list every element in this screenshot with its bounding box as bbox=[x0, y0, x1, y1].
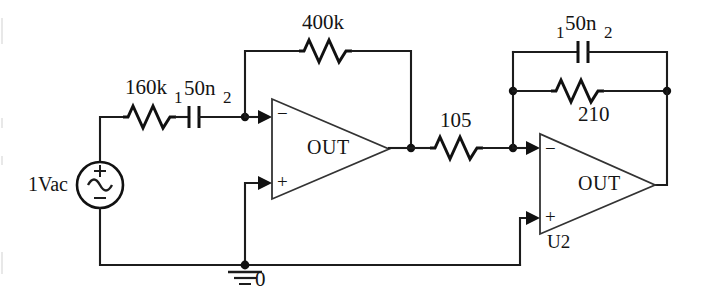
label-capacitor-50n-feedback: 50n bbox=[565, 13, 597, 34]
label-cap-fb-pin1: 1 bbox=[556, 24, 565, 41]
wire-rc-right-to-u2out bbox=[655, 91, 667, 185]
label-resistor-160k: 160k bbox=[125, 77, 167, 98]
wire-c50n-fb-right bbox=[588, 52, 667, 91]
wire-u1-plus-to-ground bbox=[245, 176, 272, 265]
label-source-value: 1Vac bbox=[28, 174, 68, 194]
label-opamp1-noninverting: + bbox=[277, 172, 288, 191]
label-opamp1-out: OUT bbox=[307, 137, 350, 157]
junction-ground bbox=[241, 261, 250, 270]
label-cap-input-pin2: 2 bbox=[223, 89, 232, 106]
resistor-210 bbox=[551, 80, 604, 102]
wire-source-to-input bbox=[100, 117, 123, 162]
resistor-160k bbox=[123, 106, 176, 128]
label-opamp2-reference: U2 bbox=[547, 232, 570, 251]
capacitor-50n-input bbox=[189, 106, 199, 128]
label-resistor-210: 210 bbox=[578, 104, 610, 125]
label-resistor-105: 105 bbox=[440, 110, 472, 131]
label-opamp2-out: OUT bbox=[578, 173, 621, 193]
label-opamp2-noninverting: + bbox=[545, 207, 556, 226]
wire-u2-plus-to-ground bbox=[520, 211, 540, 265]
label-capacitor-50n-input: 50n bbox=[184, 78, 216, 99]
resistor-400k bbox=[299, 40, 352, 62]
resistor-105 bbox=[430, 137, 483, 159]
wire-node-to-u2-minus bbox=[513, 141, 540, 155]
label-ground: 0 bbox=[255, 269, 266, 290]
schematic-canvas: 160k 1 50n 2 400k 105 1 50n 2 210 OUT − … bbox=[0, 0, 703, 306]
wire-source-bottom-rail bbox=[100, 208, 520, 265]
wire-400k-to-u1-out bbox=[352, 51, 411, 148]
label-cap-fb-pin2: 2 bbox=[604, 24, 613, 41]
wire-node-to-u1-minus bbox=[245, 110, 272, 124]
label-opamp1-inverting: − bbox=[277, 104, 288, 123]
label-opamp2-inverting: − bbox=[545, 139, 556, 158]
capacitor-50n-feedback bbox=[578, 41, 588, 63]
label-cap-input-pin1: 1 bbox=[174, 89, 183, 106]
label-resistor-400k: 400k bbox=[302, 12, 344, 33]
circuit-drawing bbox=[0, 0, 703, 306]
ac-source-symbol bbox=[77, 162, 123, 208]
